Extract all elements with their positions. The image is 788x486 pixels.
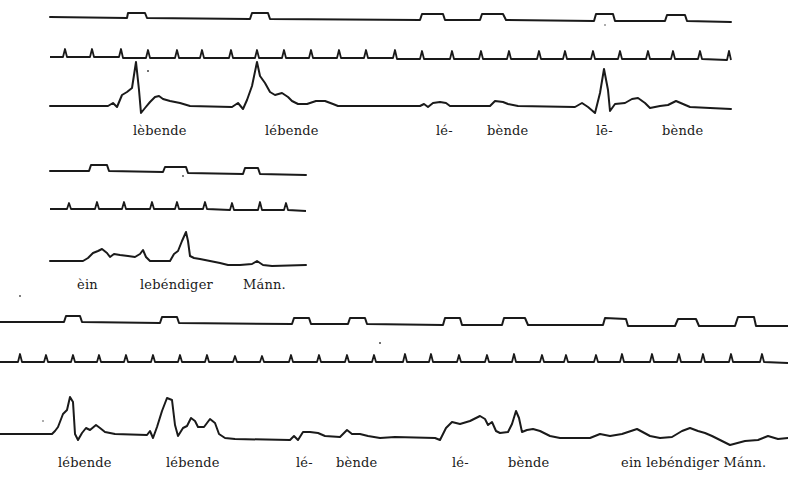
strip-2 bbox=[50, 165, 306, 266]
step-trace-2 bbox=[50, 165, 306, 175]
syllable-label: lé- bbox=[296, 455, 313, 470]
syllable-label: lébende bbox=[265, 123, 319, 138]
syllable-label: lébende bbox=[58, 455, 112, 470]
syllable-label: lé- bbox=[436, 123, 453, 138]
tick-trace-3 bbox=[0, 354, 788, 363]
step-trace-3 bbox=[0, 316, 788, 326]
syllable-label: lébende bbox=[166, 455, 220, 470]
speech-waveform-1 bbox=[50, 62, 731, 113]
strip-3 bbox=[0, 295, 788, 445]
tick-trace-2 bbox=[50, 202, 306, 211]
syllable-label: lèbende bbox=[133, 123, 187, 138]
syllable-label: lé- bbox=[452, 455, 469, 470]
kymograph-figure bbox=[0, 0, 788, 486]
syllable-label: Mánn. bbox=[243, 277, 286, 292]
syllable-label: bènde bbox=[662, 123, 703, 138]
syllable-label: bènde bbox=[336, 455, 377, 470]
phrase-label: ein lebéndiger Mánn. bbox=[621, 455, 766, 470]
syllable-label: bènde bbox=[508, 455, 549, 470]
syllable-label: lē- bbox=[596, 123, 613, 138]
speech-waveform-2 bbox=[50, 232, 306, 266]
speech-waveform-3 bbox=[0, 397, 788, 445]
strip-1 bbox=[50, 13, 731, 113]
syllable-label: lebéndiger bbox=[140, 277, 213, 292]
syllable-label: èin bbox=[77, 277, 98, 292]
step-trace-1 bbox=[50, 13, 731, 22]
tick-trace-1 bbox=[50, 49, 731, 60]
syllable-label: bènde bbox=[487, 123, 528, 138]
